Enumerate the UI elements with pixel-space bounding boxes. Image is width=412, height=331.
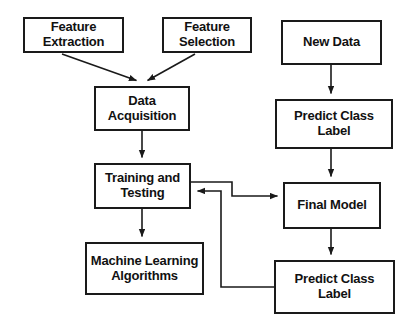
node-predict-class-label-bottom[interactable]: Predict Class Label [274, 260, 395, 314]
flowchart-canvas: Feature Extraction Feature Selection New… [0, 0, 412, 331]
node-label: New Data [303, 35, 360, 50]
edge-training-and-testing-to-final-model [191, 182, 278, 196]
node-label: Data Acquisition [108, 94, 177, 123]
node-feature-extraction[interactable]: Feature Extraction [23, 17, 124, 53]
node-label: Training and Testing [105, 171, 180, 200]
node-label: Predict Class Label [295, 272, 375, 301]
node-feature-selection[interactable]: Feature Selection [162, 17, 252, 53]
node-label: Predict Class Label [294, 109, 374, 138]
node-label: Final Model [297, 198, 366, 213]
node-training-and-testing[interactable]: Training and Testing [94, 163, 191, 209]
edge-feature-selection-to-data-acquisition [148, 54, 196, 81]
node-new-data[interactable]: New Data [281, 20, 382, 65]
node-label: Feature Extraction [43, 20, 105, 49]
edge-predict-class-label-bottom-to-training-and-testing [198, 191, 275, 287]
edge-feature-extraction-to-data-acquisition [62, 54, 137, 81]
node-machine-learning-algorithms[interactable]: Machine Learning Algorithms [85, 242, 204, 295]
node-data-acquisition[interactable]: Data Acquisition [94, 86, 190, 131]
node-final-model[interactable]: Final Model [283, 182, 381, 229]
node-label: Machine Learning Algorithms [91, 254, 198, 283]
node-predict-class-label-top[interactable]: Predict Class Label [275, 99, 393, 149]
node-label: Feature Selection [179, 20, 235, 49]
